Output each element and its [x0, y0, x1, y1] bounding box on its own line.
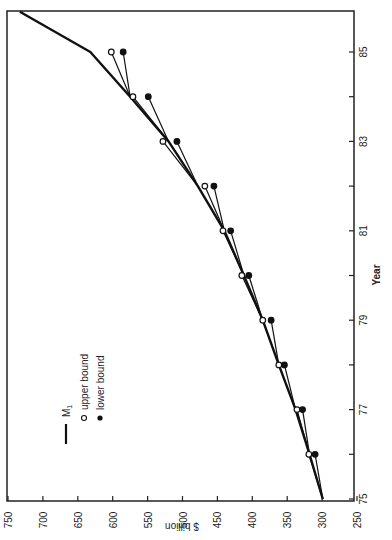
- upper-bound-point: [109, 49, 115, 55]
- value-tick-label: 450: [212, 511, 223, 528]
- year-tick-label: 79: [358, 314, 369, 326]
- upper-bound-point: [220, 228, 226, 234]
- year-tick-label: 85: [358, 46, 369, 58]
- lower-bound-point: [282, 362, 288, 368]
- lower-bound-point: [228, 228, 234, 234]
- lower-bound-point: [120, 49, 126, 55]
- year-tick-label: 77: [358, 404, 369, 416]
- value-tick-label: 650: [73, 511, 84, 528]
- upper-bound-point: [202, 183, 208, 189]
- upper-bound-point: [276, 362, 282, 368]
- upper-bound-point: [306, 452, 312, 458]
- year-tick-label: 83: [358, 135, 369, 147]
- year-axis-ticks: 757779818385: [349, 46, 369, 505]
- legend-upper-swatch: [82, 416, 87, 421]
- upper-bound-point: [130, 94, 136, 100]
- upper-bound-point: [239, 273, 245, 279]
- year-axis-label: Year: [371, 264, 382, 285]
- upper-bound-point: [260, 317, 266, 323]
- legend-upper-label: upper bound: [79, 354, 90, 410]
- value-tick-label: 400: [247, 511, 258, 528]
- lower-bound-point: [211, 183, 217, 189]
- value-tick-label: 250: [352, 511, 363, 528]
- value-tick-label: 750: [3, 511, 14, 528]
- upper-bound-point: [294, 407, 300, 413]
- legend: M1upper boundlower bound: [61, 354, 106, 444]
- upper-bound-point: [160, 139, 166, 145]
- lower-bound-point: [174, 139, 180, 145]
- m1-chart: 250300350400450500550600650700750 757779…: [0, 0, 392, 540]
- value-tick-label: 700: [38, 511, 49, 528]
- legend-m1-label: M1: [61, 405, 73, 417]
- lower-bound-point: [312, 452, 318, 458]
- lower-bound-point: [246, 273, 252, 279]
- value-tick-label: 600: [108, 511, 119, 528]
- lower-bound-point: [300, 407, 306, 413]
- value-tick-label: 550: [143, 511, 154, 528]
- year-tick-label: 81: [358, 225, 369, 237]
- legend-lower-label: lower bound: [95, 356, 106, 410]
- value-tick-label: 300: [317, 511, 328, 528]
- lower-bound-point: [268, 317, 274, 323]
- value-tick-label: 350: [282, 511, 293, 528]
- legend-lower-swatch: [97, 415, 102, 420]
- year-tick-label: 75: [358, 493, 369, 505]
- value-axis-label: $ billion: [165, 521, 199, 532]
- lower-bound-point: [145, 94, 151, 100]
